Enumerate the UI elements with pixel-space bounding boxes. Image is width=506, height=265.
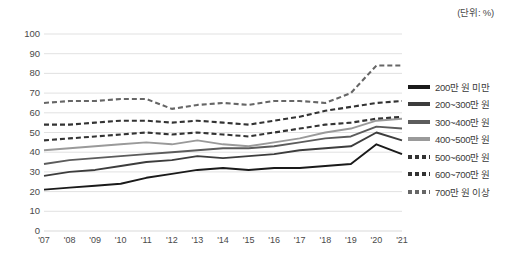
legend-item[interactable]: 200~300만 원 xyxy=(408,96,506,114)
legend-label: 400~500만 원 xyxy=(435,132,490,146)
x-tick-label: '21 xyxy=(396,236,408,245)
legend-label: 300~400만 원 xyxy=(435,115,490,129)
legend-label: 700만 원 이상 xyxy=(435,185,489,199)
x-tick-label: '18 xyxy=(319,236,331,245)
x-tick-label: '17 xyxy=(294,236,306,245)
x-tick-label: '10 xyxy=(115,236,127,245)
y-tick-label: 70 xyxy=(0,88,40,98)
x-tick-label: '14 xyxy=(217,236,229,245)
y-tick-label: 40 xyxy=(0,147,40,157)
x-tick-label: '12 xyxy=(166,236,178,245)
legend-swatch xyxy=(408,120,430,124)
y-tick-label: 100 xyxy=(0,29,40,39)
y-tick-label: 90 xyxy=(0,49,40,59)
series-line xyxy=(44,66,402,109)
legend-swatch xyxy=(408,85,430,89)
legend-item[interactable]: 300~400만 원 xyxy=(408,113,506,131)
legend-swatch xyxy=(408,155,430,159)
legend-item[interactable]: 400~500만 원 xyxy=(408,131,506,149)
x-tick-label: '16 xyxy=(268,236,280,245)
legend-item[interactable]: 500~600만 원 xyxy=(408,148,506,166)
series-line xyxy=(44,101,402,125)
unit-label: (단위: %) xyxy=(457,5,494,19)
y-tick-label: 80 xyxy=(0,69,40,79)
x-tick-label: '15 xyxy=(243,236,255,245)
legend-swatch xyxy=(408,190,430,194)
y-tick-label: 30 xyxy=(0,167,40,177)
y-tick-label: 60 xyxy=(0,108,40,118)
line-chart: (단위: %) 0102030405060708090100 '07'08'09… xyxy=(0,0,506,265)
legend: 200만 원 미만200~300만 원300~400만 원400~500만 원5… xyxy=(408,78,506,201)
legend-label: 200만 원 미만 xyxy=(435,80,489,94)
series-line xyxy=(44,144,402,189)
legend-swatch xyxy=(408,102,430,106)
legend-swatch xyxy=(408,137,430,141)
legend-label: 600~700만 원 xyxy=(435,167,490,181)
x-tick-label: '19 xyxy=(345,236,357,245)
x-tick-label: '09 xyxy=(89,236,101,245)
x-tick-label: '08 xyxy=(64,236,76,245)
legend-item[interactable]: 200만 원 미만 xyxy=(408,78,506,96)
series-line xyxy=(44,133,402,176)
series-lines xyxy=(44,34,402,231)
x-tick-label: '07 xyxy=(38,236,50,245)
x-tick-label: '13 xyxy=(192,236,204,245)
legend-item[interactable]: 600~700만 원 xyxy=(408,166,506,184)
x-tick-label: '11 xyxy=(141,236,152,245)
y-tick-label: 0 xyxy=(0,226,40,236)
y-tick-label: 20 xyxy=(0,187,40,197)
y-tick-label: 10 xyxy=(0,207,40,217)
y-tick-label: 50 xyxy=(0,128,40,138)
x-tick-label: '20 xyxy=(371,236,383,245)
legend-label: 500~600만 원 xyxy=(435,150,490,164)
legend-swatch xyxy=(408,172,430,176)
legend-item[interactable]: 700만 원 이상 xyxy=(408,183,506,201)
y-axis: 0102030405060708090100 xyxy=(0,34,40,231)
legend-label: 200~300만 원 xyxy=(435,97,490,111)
x-axis: '07'08'09'10'11'12'13'14'15'16'17'18'19'… xyxy=(44,236,402,252)
plot-area xyxy=(44,34,402,231)
